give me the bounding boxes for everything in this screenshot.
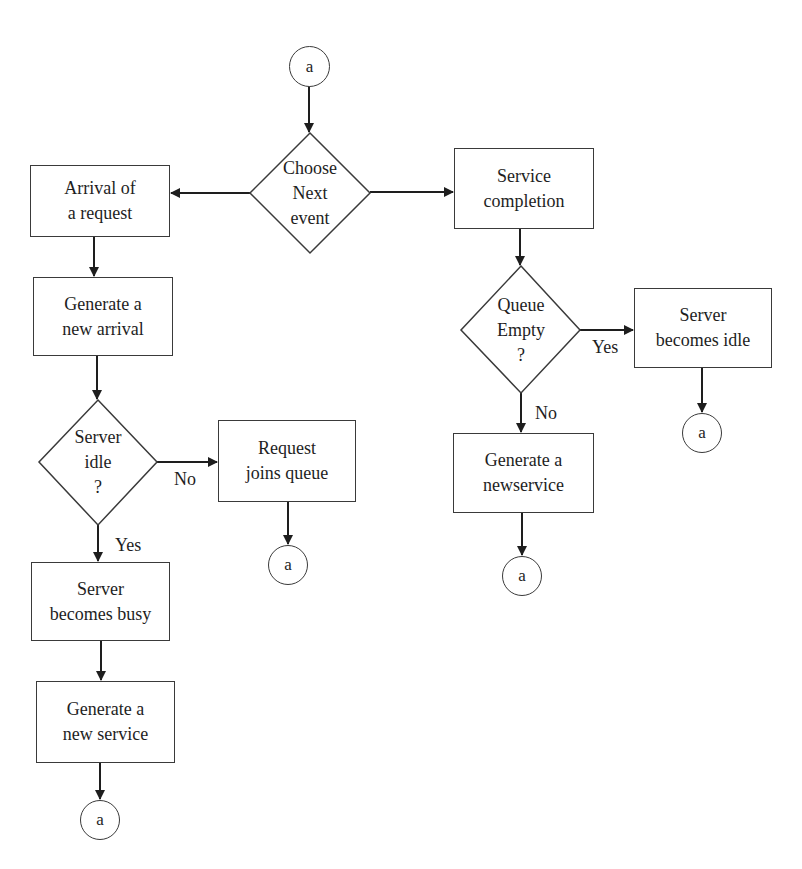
process-label: Arrival of a request: [64, 176, 135, 226]
edge-label-queue-empty-yes: Yes: [592, 337, 618, 358]
process-label: Generate a new service: [63, 697, 148, 747]
process-generate-new-service: Generate a new service: [36, 681, 175, 763]
edge-label-queue-empty-no: No: [535, 403, 557, 424]
connector-request-joins-queue-end: a: [268, 545, 308, 585]
decision-server-idle: Server idle ?: [48, 422, 148, 502]
process-label: Generate a newservice: [483, 448, 564, 498]
connector-right-branch-end: a: [502, 556, 542, 596]
edge-label-server-idle-no: No: [174, 469, 196, 490]
flowchart-canvas: a a a a a Choose Next event Server idle …: [0, 0, 802, 869]
decision-label: Server idle ?: [75, 425, 122, 500]
decision-label: Choose Next event: [283, 156, 337, 231]
process-label: Request joins queue: [246, 436, 329, 486]
connector-label: a: [306, 57, 314, 77]
process-label: Server becomes busy: [50, 577, 151, 627]
process-generate-new-arrival: Generate a new arrival: [33, 277, 173, 356]
connector-start: a: [289, 46, 330, 87]
connector-label: a: [284, 555, 292, 575]
decision-label: Queue Empty ?: [497, 293, 545, 368]
process-server-becomes-busy: Server becomes busy: [31, 562, 170, 641]
process-label: Service completion: [484, 164, 565, 214]
process-request-joins-queue: Request joins queue: [218, 420, 356, 502]
connector-label: a: [518, 566, 526, 586]
connector-server-idle-end: a: [682, 413, 722, 453]
process-label: Server becomes idle: [656, 303, 750, 353]
connector-label: a: [96, 810, 104, 830]
edge-label-server-idle-yes: Yes: [115, 535, 141, 556]
process-service-completion: Service completion: [454, 148, 594, 229]
process-arrival-of-request: Arrival of a request: [30, 165, 170, 237]
process-server-becomes-idle: Server becomes idle: [634, 288, 772, 368]
process-generate-newservice: Generate a newservice: [453, 433, 594, 513]
process-label: Generate a new arrival: [62, 292, 143, 342]
decision-queue-empty: Queue Empty ?: [471, 290, 571, 370]
connector-label: a: [698, 423, 706, 443]
decision-choose-next-event: Choose Next event: [260, 153, 360, 233]
connector-left-branch-end: a: [80, 800, 120, 840]
